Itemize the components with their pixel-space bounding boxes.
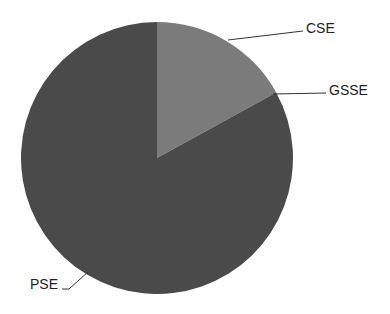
leader-line-gsse xyxy=(273,93,326,94)
leader-line-cse xyxy=(228,31,303,40)
label-cse: CSE xyxy=(306,20,335,36)
label-gsse: GSSE xyxy=(329,82,368,98)
leader-line-pse xyxy=(62,272,88,289)
pie-chart: CSE GSSE PSE xyxy=(0,0,390,314)
label-pse: PSE xyxy=(30,276,58,292)
pie-slices xyxy=(21,22,293,294)
